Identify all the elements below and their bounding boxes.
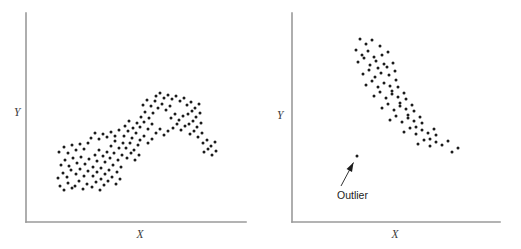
scatter-point [67, 182, 70, 185]
scatter-point [179, 100, 182, 103]
scatter-point [377, 86, 380, 89]
scatter-point [365, 84, 368, 87]
scatter-point [110, 131, 113, 134]
scatter-point [96, 160, 99, 163]
scatter-point [126, 157, 129, 160]
scatter-point [403, 131, 406, 134]
scatter-point [421, 122, 424, 125]
scatter-point [116, 171, 119, 174]
scatter-point [413, 120, 416, 123]
scatter-point [86, 183, 89, 186]
scatter-point [175, 95, 178, 98]
scatter-point [67, 152, 70, 155]
left-y-axis-label: Y [14, 106, 22, 118]
left-scatterplot-panel: Y X [0, 0, 260, 249]
scatter-point [407, 114, 410, 117]
scatter-point [399, 102, 402, 105]
scatter-point [163, 134, 166, 137]
scatter-point [131, 137, 134, 140]
scatter-point [172, 127, 175, 130]
scatter-point [195, 116, 198, 119]
left-plot-canvas: Y X [0, 0, 260, 249]
scatter-point [368, 69, 371, 72]
scatter-point [171, 98, 174, 101]
scatter-point [367, 50, 370, 53]
scatter-point [186, 104, 189, 107]
scatter-point [405, 108, 408, 111]
scatter-point [447, 140, 450, 143]
scatter-point [76, 162, 79, 165]
scatter-point [176, 123, 179, 126]
scatter-point [397, 86, 400, 89]
scatter-point [113, 152, 116, 155]
scatter-point [82, 188, 85, 191]
scatter-point [457, 147, 460, 150]
scatter-point [451, 151, 454, 154]
left-data-points-group [57, 92, 218, 192]
scatter-point [159, 92, 162, 95]
scatter-point [63, 146, 66, 149]
scatter-point [411, 104, 414, 107]
scatter-point [202, 142, 205, 145]
scatter-point [58, 151, 61, 154]
scatter-point [392, 62, 395, 65]
scatter-point [386, 66, 389, 69]
scatter-point [415, 126, 418, 129]
scatter-point [68, 165, 71, 168]
scatter-point [427, 132, 430, 135]
scatter-point [441, 144, 444, 147]
scatter-point [383, 82, 386, 85]
right-scatterplot-panel: Outlier Y X [260, 0, 521, 249]
scatter-point [74, 185, 77, 188]
scatter-point [373, 95, 376, 98]
scatter-point [102, 155, 105, 158]
scatter-point [110, 145, 113, 148]
right-x-axis-label: X [390, 228, 399, 240]
scatter-point [203, 151, 206, 154]
scatter-point [59, 185, 62, 188]
scatter-point [134, 159, 137, 162]
scatter-point [165, 109, 168, 112]
scatter-point [385, 97, 388, 100]
scatter-point [169, 105, 172, 108]
scatter-point [115, 183, 118, 186]
scatter-point [135, 132, 138, 135]
scatter-point [180, 129, 183, 132]
scatter-point [211, 154, 214, 157]
scatter-point [107, 180, 110, 183]
scatter-point [96, 171, 99, 174]
scatter-point [429, 138, 432, 141]
scatter-point [389, 85, 392, 88]
left-x-axis-label: X [135, 228, 144, 240]
scatter-point [99, 189, 102, 192]
scatter-point [197, 136, 200, 139]
scatter-point [379, 45, 382, 48]
scatter-point [199, 112, 202, 115]
scatter-point [75, 173, 78, 176]
scatter-point [387, 103, 390, 106]
scatter-point [83, 175, 86, 178]
scatter-point [118, 147, 121, 150]
scatter-point [429, 145, 432, 148]
scatter-point [394, 70, 397, 73]
scatter-point [210, 145, 213, 148]
scatter-point [71, 187, 74, 190]
scatter-point [133, 149, 136, 152]
scatter-point [152, 112, 155, 115]
scatter-point [128, 120, 131, 123]
scatter-point [155, 95, 158, 98]
scatter-point [125, 147, 128, 150]
scatter-point [196, 126, 199, 129]
scatter-point [64, 159, 67, 162]
scatter-point [106, 151, 109, 154]
scatter-point [413, 110, 416, 113]
scatter-point [112, 164, 115, 167]
scatter-point [139, 126, 142, 129]
scatter-point [362, 73, 365, 76]
scatter-point [375, 60, 378, 63]
scatter-point [147, 128, 150, 131]
scatter-point [70, 169, 73, 172]
scatter-point [417, 143, 420, 146]
scatter-point [71, 144, 74, 147]
scatter-point [83, 148, 86, 151]
